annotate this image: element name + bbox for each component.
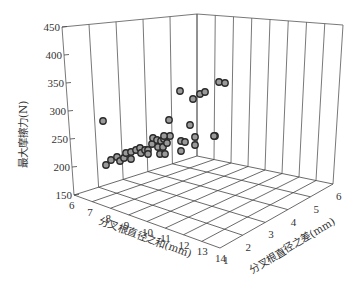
z-axis: 150200250300350400450 — [44, 21, 80, 201]
z-tick-label: 400 — [46, 49, 63, 61]
data-point — [166, 117, 172, 123]
data-point — [128, 156, 134, 162]
data-point — [164, 140, 170, 146]
data-point — [161, 133, 167, 139]
data-point — [222, 80, 228, 86]
z-tick-label: 250 — [52, 133, 69, 145]
data-point — [192, 134, 198, 140]
data-point — [211, 133, 217, 139]
y-tick-label: 4 — [291, 216, 297, 228]
y-tick-label: 1 — [223, 254, 229, 266]
z-tick-label: 300 — [50, 105, 67, 117]
data-point — [103, 162, 109, 168]
z-tick-label: 200 — [54, 161, 71, 173]
data-point — [162, 151, 168, 157]
x-tick-label: 6 — [69, 199, 75, 211]
data-point — [100, 118, 106, 124]
data-point — [187, 122, 193, 128]
z-tick-label: 450 — [44, 21, 61, 33]
data-point — [202, 89, 208, 95]
y-tick-label: 3 — [268, 228, 274, 240]
y-tick-label: 6 — [336, 190, 342, 202]
data-point — [182, 139, 188, 145]
y-tick-label: 2 — [246, 241, 252, 253]
scatter-3d-chart: 150200250300350400450 67891011121314 123… — [0, 0, 364, 287]
y-tick-label: 5 — [313, 203, 319, 215]
data-point — [190, 96, 196, 102]
floor-grid — [74, 156, 333, 248]
z-tick-label: 350 — [48, 77, 65, 89]
data-point — [192, 142, 198, 148]
data-point — [145, 151, 151, 157]
x-tick-label: 13 — [197, 245, 209, 257]
data-point — [178, 148, 184, 154]
data-point — [177, 88, 183, 94]
x-tick-label: 7 — [87, 206, 93, 218]
z-axis-label: 最大摩擦力(N) — [17, 101, 29, 168]
